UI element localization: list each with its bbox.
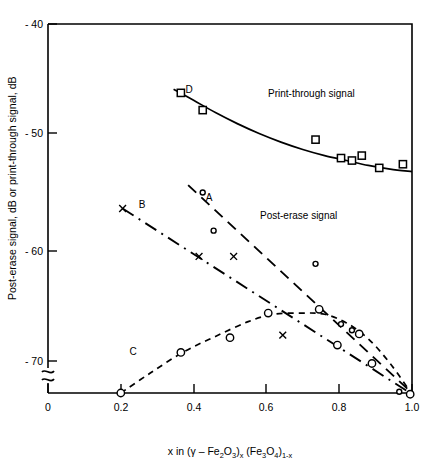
data-point-marker <box>312 136 319 143</box>
x-ticklabel-0.4: 0.4 <box>187 401 202 413</box>
x-axis-ticks: 0 0.2 0.4 0.6 0.8 1.0 <box>45 384 419 413</box>
chart-svg: - 40 - 50 - 60 - 70 0 0.2 0.4 0.6 0.8 1.… <box>0 0 425 475</box>
data-point-marker <box>230 253 237 260</box>
y-ticklabel-60: - 60 <box>25 245 43 257</box>
data-point-marker <box>397 389 402 394</box>
data-point-marker <box>339 322 344 327</box>
xlabel-dash: – Fe <box>196 445 220 457</box>
annotation-post-erase: Post-erase signal <box>260 210 337 221</box>
data-point-marker <box>226 334 233 341</box>
y-axis-ticks: - 40 - 50 - 60 - 70 <box>25 18 57 367</box>
y-ticklabel-50: - 50 <box>25 127 43 139</box>
curve-label-c: C <box>129 346 136 357</box>
x-ticklabel-0.8: 0.8 <box>332 401 347 413</box>
data-point-marker <box>200 190 205 195</box>
x-ticklabel-0.6: 0.6 <box>259 401 274 413</box>
data-point-marker <box>358 152 365 159</box>
curve-label-a: A <box>206 192 213 203</box>
curve-label-b: B <box>139 199 146 210</box>
data-point-marker <box>356 330 363 337</box>
data-point-marker <box>117 389 124 396</box>
series-b <box>119 205 412 394</box>
data-point-marker <box>406 391 413 398</box>
data-point-marker <box>376 164 383 171</box>
data-point-marker <box>177 89 184 96</box>
data-point-marker <box>334 341 341 348</box>
curve-label-d: D <box>185 84 192 95</box>
y-axis-title: Post-erase signal, dB or print-through s… <box>6 76 18 300</box>
x-ticklabel-1.0: 1.0 <box>405 401 420 413</box>
x-axis-title: x in (γ – Fe2O3)x (Fe3O4)1-x <box>168 445 293 460</box>
figure-container: - 40 - 50 - 60 - 70 0 0.2 0.4 0.6 0.8 1.… <box>0 0 425 475</box>
series-d <box>174 89 412 171</box>
annotation-print-through: Print-through signal <box>268 88 355 99</box>
data-point-marker <box>119 205 126 212</box>
xlabel-mid2: (Fe <box>243 445 262 457</box>
y-ticklabel-40: - 40 <box>25 18 43 30</box>
data-point-marker <box>279 332 286 339</box>
xlabel-mid1: O <box>224 445 232 457</box>
data-point-marker <box>348 157 355 164</box>
x-ticklabel-0.2: 0.2 <box>114 401 129 413</box>
xlabel-lead: x in ( <box>168 445 191 457</box>
data-point-marker <box>211 228 216 233</box>
curve-line-d <box>174 89 412 171</box>
axis-break-icon <box>42 371 54 381</box>
curve-line-b <box>123 209 412 395</box>
xlabel-mid3: O <box>266 445 274 457</box>
data-point-marker <box>399 161 406 168</box>
data-point-marker <box>177 349 184 356</box>
data-point-marker <box>265 309 272 316</box>
data-point-marker <box>349 328 354 333</box>
y-ticklabel-70: - 70 <box>25 355 43 367</box>
data-point-marker <box>315 306 322 313</box>
curve-line-c <box>121 313 412 394</box>
x-ticklabel-0: 0 <box>45 401 51 413</box>
series-layer <box>117 89 414 398</box>
data-point-marker <box>313 261 318 266</box>
data-point-marker <box>199 107 206 114</box>
data-point-marker <box>337 154 344 161</box>
xlabel-sub6: 1-x <box>282 451 293 460</box>
data-point-marker <box>368 360 375 367</box>
